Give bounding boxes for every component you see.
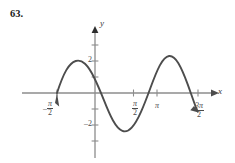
y-axis — [92, 26, 99, 158]
denominator-neg-pi-over-2: 2 — [47, 109, 53, 117]
x-tick-label-neg-pi-over-2: – π 2 — [37, 100, 59, 118]
y-tick-label-neg-2: –2 — [78, 120, 92, 128]
x-tick-label-pi-over-2: π 2 — [128, 100, 142, 118]
trig-graph-figure — [0, 0, 235, 163]
y-tick-label-2: 2 — [83, 56, 92, 64]
x-axis-label: x — [218, 86, 222, 96]
denominator-pi-over-2: 2 — [132, 109, 138, 117]
y-axis-arrowhead — [92, 26, 99, 33]
x-tick-label-pi: π — [151, 102, 163, 110]
x-tick-label-3pi-over-2: 3π 2 — [190, 102, 208, 120]
y-axis-label: y — [100, 18, 104, 28]
curve-group — [55, 56, 199, 131]
figure-page: 63. — [0, 0, 235, 163]
denominator-3pi-over-2: 2 — [194, 111, 204, 119]
